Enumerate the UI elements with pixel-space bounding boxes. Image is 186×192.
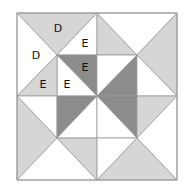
label-d-top: D <box>54 22 62 35</box>
label-e-light-left: E <box>40 78 47 91</box>
label-d-left: D <box>32 49 40 62</box>
label-e-white-inner: E <box>64 78 71 91</box>
quilt-pieces <box>17 13 177 180</box>
label-e-top-small: E <box>82 37 89 50</box>
quilt-block-diagram: D E D E E E <box>0 0 186 192</box>
label-e-dark: E <box>82 61 89 74</box>
